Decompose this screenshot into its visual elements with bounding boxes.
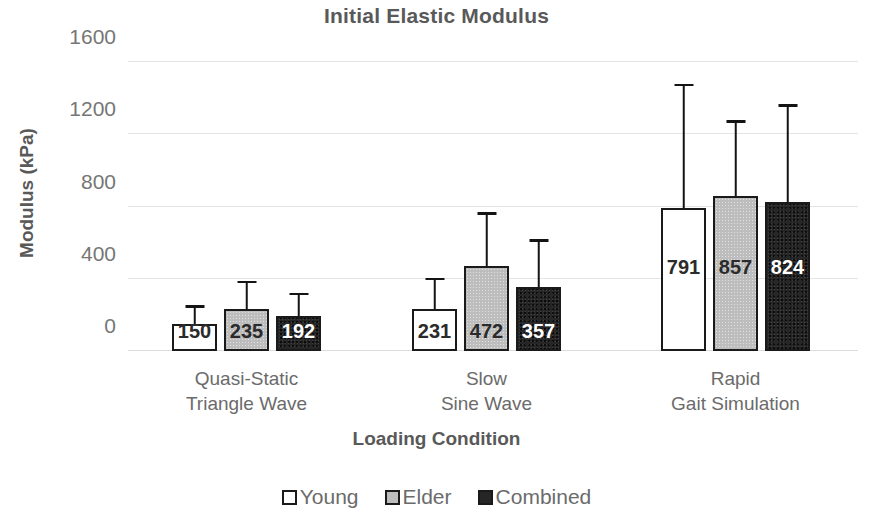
error-bar-cap bbox=[425, 278, 444, 281]
bar-combined[interactable]: 192 bbox=[276, 62, 321, 351]
x-axis-category-line: Rapid bbox=[621, 366, 850, 391]
bar-group: 791857824 bbox=[661, 62, 810, 351]
x-axis-category-line: Slow bbox=[372, 366, 601, 391]
y-axis-ticks: 040080012001600 bbox=[12, 62, 116, 351]
x-axis-category-line: Sine Wave bbox=[372, 391, 601, 416]
chart-container: Initial Elastic Modulus Modulus (kPa) 04… bbox=[0, 0, 873, 528]
legend-item-combined[interactable]: Combined bbox=[478, 485, 592, 509]
bar-value-label: 235 bbox=[226, 321, 267, 341]
bar-value-label: 357 bbox=[518, 321, 559, 341]
y-axis-tick-label: 1600 bbox=[30, 25, 116, 49]
bar-elder[interactable]: 235 bbox=[224, 62, 269, 351]
legend-item-elder[interactable]: Elder bbox=[385, 485, 452, 509]
bar-combined[interactable]: 824 bbox=[765, 62, 810, 351]
y-axis-tick-label: 1200 bbox=[30, 97, 116, 121]
bar-value-label: 150 bbox=[174, 321, 215, 341]
x-axis-category-line: Triangle Wave bbox=[132, 391, 361, 416]
error-bar-line bbox=[537, 242, 540, 293]
error-bar-line bbox=[682, 86, 685, 214]
bar-young[interactable]: 231 bbox=[412, 62, 457, 351]
x-axis-category-label: SlowSine Wave bbox=[372, 366, 601, 416]
error-bar-line bbox=[786, 107, 789, 209]
bar-value-label: 791 bbox=[663, 257, 704, 277]
legend-swatch-icon bbox=[478, 490, 493, 505]
error-bar-cap bbox=[289, 293, 308, 296]
y-axis-tick-label: 800 bbox=[30, 170, 116, 194]
error-bar-cap bbox=[477, 212, 496, 215]
x-axis-category-line: Quasi-Static bbox=[132, 366, 361, 391]
x-axis-title: Loading Condition bbox=[0, 428, 873, 450]
chart-legend: YoungElderCombined bbox=[0, 485, 873, 509]
plot-area: 150235192231472357791857824 bbox=[128, 62, 858, 351]
chart-title: Initial Elastic Modulus bbox=[0, 4, 873, 28]
y-axis-tick-label: 400 bbox=[30, 242, 116, 266]
bar[interactable]: 791 bbox=[661, 208, 706, 351]
error-bar-cap bbox=[529, 239, 548, 242]
legend-item-young[interactable]: Young bbox=[282, 485, 359, 509]
bar-group: 231472357 bbox=[412, 62, 561, 351]
bar-value-label: 824 bbox=[767, 257, 808, 277]
error-bar-cap bbox=[726, 120, 745, 123]
x-axis-category-label: Quasi-StaticTriangle Wave bbox=[132, 366, 361, 416]
bar[interactable]: 857 bbox=[713, 196, 758, 351]
error-bar-line bbox=[734, 123, 737, 203]
bar-value-label: 472 bbox=[466, 321, 507, 341]
legend-label: Elder bbox=[403, 485, 452, 509]
bar-value-label: 192 bbox=[278, 321, 319, 341]
x-axis-category-label: RapidGait Simulation bbox=[621, 366, 850, 416]
y-axis-tick-label: 0 bbox=[30, 314, 116, 338]
bar[interactable]: 472 bbox=[464, 266, 509, 351]
bar-elder[interactable]: 472 bbox=[464, 62, 509, 351]
bar[interactable]: 235 bbox=[224, 309, 269, 351]
bar-value-label: 857 bbox=[715, 257, 756, 277]
error-bar-cap bbox=[185, 305, 204, 308]
bar[interactable]: 192 bbox=[276, 316, 321, 351]
bar-young[interactable]: 791 bbox=[661, 62, 706, 351]
bar-young[interactable]: 150 bbox=[172, 62, 217, 351]
bar-elder[interactable]: 857 bbox=[713, 62, 758, 351]
bar-value-label: 231 bbox=[414, 321, 455, 341]
legend-swatch-icon bbox=[282, 490, 297, 505]
legend-swatch-icon bbox=[385, 490, 400, 505]
error-bar-cap bbox=[674, 84, 693, 87]
x-axis-category-line: Gait Simulation bbox=[621, 391, 850, 416]
error-bar-cap bbox=[237, 281, 256, 284]
legend-label: Combined bbox=[496, 485, 592, 509]
error-bar-cap bbox=[778, 104, 797, 107]
legend-label: Young bbox=[300, 485, 359, 509]
bar[interactable]: 150 bbox=[172, 324, 217, 351]
bar[interactable]: 357 bbox=[516, 287, 561, 351]
bar-combined[interactable]: 357 bbox=[516, 62, 561, 351]
bar[interactable]: 824 bbox=[765, 202, 810, 351]
error-bar-line bbox=[485, 215, 488, 272]
bar-group: 150235192 bbox=[172, 62, 321, 351]
bar[interactable]: 231 bbox=[412, 309, 457, 351]
